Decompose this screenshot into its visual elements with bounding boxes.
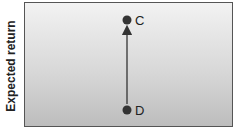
point-d — [123, 106, 132, 115]
point-c — [123, 16, 132, 25]
point-c-label: C — [135, 13, 144, 28]
point-d-label: D — [135, 103, 144, 118]
diagram-overlay: C D — [0, 0, 233, 132]
